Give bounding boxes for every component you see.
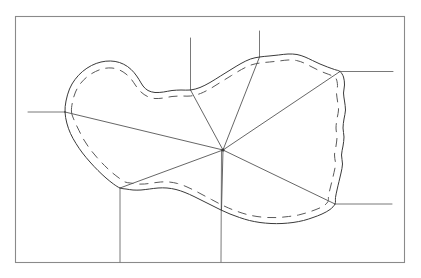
central-hub-point [221,148,224,151]
spoke-to-west [65,112,223,150]
leader-lines-group [28,31,393,262]
technical-line-drawing [0,0,421,278]
spoke-to-north-east [223,72,340,151]
region-dashed-inner-boundary [71,60,338,218]
spoke-to-north-west [191,90,224,150]
spoke-to-south-east [223,150,335,204]
figure-container [0,0,421,278]
region-solid-boundary [65,54,346,224]
radial-spokes-group [65,57,340,210]
